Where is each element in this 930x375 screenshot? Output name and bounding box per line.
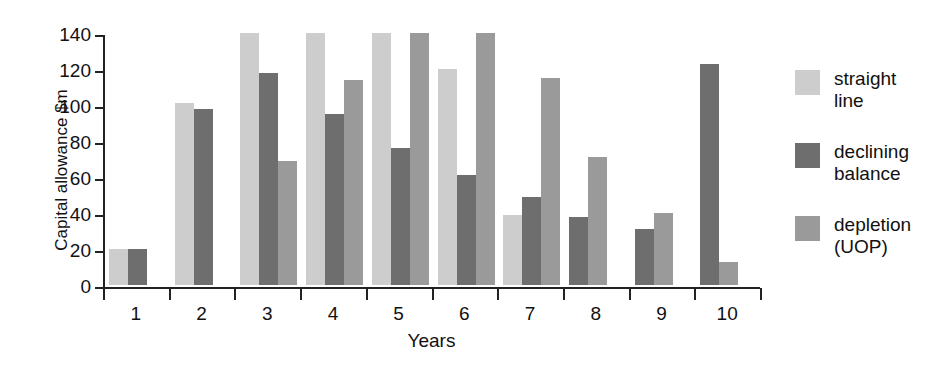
bar	[175, 103, 194, 285]
legend-label: depletion (UOP)	[834, 214, 911, 259]
y-tick-label: 120	[59, 60, 91, 82]
bar	[457, 175, 476, 285]
bar	[372, 33, 391, 285]
y-tick-label: 20	[70, 240, 91, 262]
y-tick-mark	[95, 107, 104, 109]
legend-swatch	[795, 216, 820, 241]
x-tick-mark	[432, 288, 434, 300]
bar	[325, 114, 344, 285]
bar	[541, 78, 560, 285]
x-tick-mark	[497, 288, 499, 300]
x-tick-label: 3	[247, 303, 287, 325]
y-tick-label: 40	[70, 204, 91, 226]
x-axis-title: Years	[103, 330, 760, 352]
bar	[306, 33, 325, 285]
legend-label: straight line	[834, 68, 896, 113]
x-tick-mark	[366, 288, 368, 300]
bar	[522, 197, 541, 285]
bar	[635, 229, 654, 285]
x-tick-label: 8	[576, 303, 616, 325]
bar	[109, 249, 128, 285]
bar	[344, 80, 363, 285]
bar	[410, 33, 429, 285]
y-tick-mark	[95, 71, 104, 73]
x-tick-mark	[563, 288, 565, 300]
bar	[438, 69, 457, 285]
bar	[391, 148, 410, 285]
bar	[719, 262, 738, 285]
legend: straight linedeclining balancedepletion …	[795, 68, 930, 286]
x-tick-mark	[103, 288, 105, 300]
y-tick-mark	[95, 215, 104, 217]
x-tick-label: 9	[641, 303, 681, 325]
legend-item: depletion (UOP)	[795, 214, 930, 259]
x-tick-mark	[169, 288, 171, 300]
bar	[128, 249, 147, 285]
bar	[700, 64, 719, 285]
x-tick-label: 10	[707, 303, 747, 325]
y-tick-mark	[95, 143, 104, 145]
legend-swatch	[795, 143, 820, 168]
x-tick-label: 4	[313, 303, 353, 325]
x-tick-mark	[629, 288, 631, 300]
x-tick-mark	[300, 288, 302, 300]
y-tick-label: 80	[70, 132, 91, 154]
bar	[588, 157, 607, 285]
bar	[278, 161, 297, 285]
legend-swatch	[795, 70, 820, 95]
bar	[654, 213, 673, 285]
y-tick-label: 140	[59, 24, 91, 46]
x-tick-label: 7	[510, 303, 550, 325]
legend-item: straight line	[795, 68, 930, 113]
y-tick-label: 100	[59, 96, 91, 118]
y-tick-mark	[95, 179, 104, 181]
y-tick-mark	[95, 35, 104, 37]
x-tick-label: 1	[116, 303, 156, 325]
legend-label: declining balance	[834, 141, 909, 186]
bar	[259, 73, 278, 285]
plot-area: 020406080100120140 12345678910	[103, 35, 760, 287]
bar	[240, 33, 259, 285]
y-tick-label: 0	[80, 276, 91, 298]
x-tick-mark	[694, 288, 696, 300]
bar	[503, 215, 522, 285]
x-tick-label: 2	[182, 303, 222, 325]
bar	[569, 217, 588, 285]
bar	[476, 33, 495, 285]
x-tick-mark	[760, 288, 762, 300]
x-tick-label: 6	[444, 303, 484, 325]
bar	[194, 109, 213, 285]
x-tick-mark	[234, 288, 236, 300]
legend-item: declining balance	[795, 141, 930, 186]
y-tick-mark	[95, 251, 104, 253]
x-tick-label: 5	[379, 303, 419, 325]
y-tick-label: 60	[70, 168, 91, 190]
chart-figure: Capital allowance $m 020406080100120140 …	[0, 0, 930, 375]
